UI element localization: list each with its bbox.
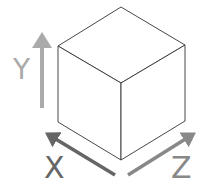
cube xyxy=(58,7,185,160)
y-axis-label: Y xyxy=(13,56,30,84)
z-axis-label: Z xyxy=(171,153,192,183)
x-axis-label: X xyxy=(44,153,65,183)
